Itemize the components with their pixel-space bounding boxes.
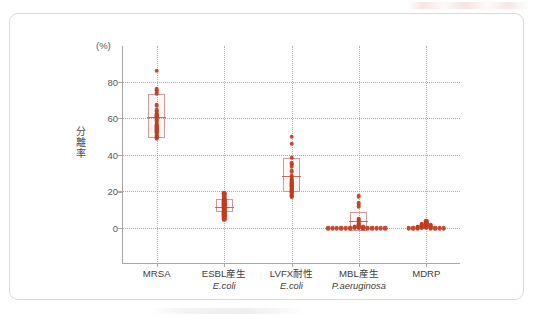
- y-tick-label: 0: [94, 223, 118, 234]
- x-tick-mark: [292, 263, 293, 267]
- gridline-x-3: [359, 46, 360, 264]
- gridline-x-4: [426, 46, 427, 264]
- y-axis-title: 分離率: [74, 126, 88, 159]
- y-axis-unit-label: (%): [96, 40, 111, 51]
- data-point: [330, 226, 335, 231]
- x-category-label-4: MDRP: [381, 268, 471, 280]
- x-category-line1: MRSA: [143, 268, 171, 279]
- data-point: [348, 226, 353, 231]
- x-tick-mark: [157, 263, 158, 267]
- data-point: [339, 226, 344, 231]
- data-point: [222, 217, 227, 222]
- y-tick-label: 40: [94, 149, 118, 160]
- data-point: [289, 195, 294, 200]
- y-tick-mark: [118, 82, 122, 83]
- data-point: [357, 194, 362, 199]
- y-axis-title-text: 分離率: [76, 126, 86, 159]
- data-point: [326, 226, 331, 231]
- y-tick-label: 20: [94, 186, 118, 197]
- data-point: [335, 226, 340, 231]
- y-tick-label: 80: [94, 76, 118, 87]
- data-point: [289, 142, 294, 147]
- x-category-line1: MDRP: [412, 268, 440, 279]
- data-point: [357, 204, 362, 209]
- y-tick-mark: [118, 118, 122, 119]
- y-tick-mark: [118, 191, 122, 192]
- gridline-x-1: [224, 46, 225, 264]
- gridline-x-0: [157, 46, 158, 264]
- data-point: [289, 134, 294, 139]
- data-point: [406, 226, 411, 231]
- y-tick-mark: [118, 228, 122, 229]
- data-point: [343, 226, 348, 231]
- data-point: [154, 91, 159, 96]
- x-tick-mark: [224, 263, 225, 267]
- y-tick-mark: [118, 155, 122, 156]
- x-category-line1: ESBL産生: [202, 268, 247, 279]
- data-point: [289, 155, 294, 160]
- data-point: [411, 226, 416, 231]
- data-point: [420, 226, 425, 231]
- data-point: [352, 226, 357, 231]
- x-tick-mark: [426, 263, 427, 267]
- x-category-line1: MBL産生: [339, 268, 379, 279]
- data-point: [154, 68, 159, 73]
- data-point: [415, 226, 420, 231]
- y-tick-label: 60: [94, 113, 118, 124]
- data-point: [383, 226, 388, 231]
- data-point: [154, 136, 159, 141]
- data-point: [442, 226, 447, 231]
- x-category-line1: LVFX耐性: [270, 268, 313, 279]
- scatter-plot: (%) 分離率 020406080 MRSAESBL産生E.coliLVFX耐性…: [0, 0, 536, 315]
- x-tick-mark: [359, 263, 360, 267]
- x-category-line2: P.aeruginosa: [314, 280, 404, 292]
